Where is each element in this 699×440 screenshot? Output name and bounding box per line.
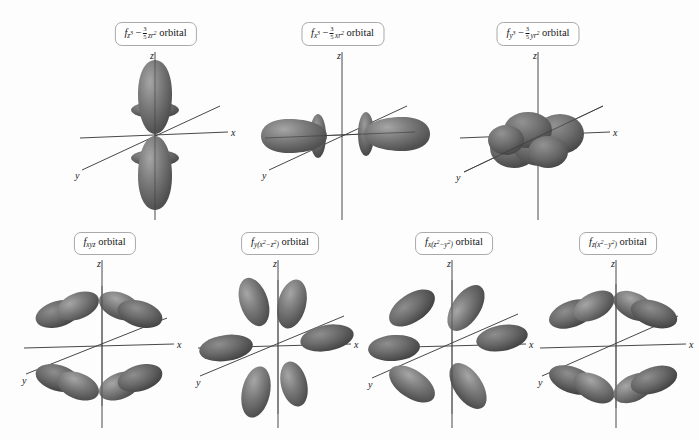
orbital-svg-fxyz: z x y [22,256,187,431]
axis-label-z: z [336,50,341,61]
axis-label-y: y [367,379,373,390]
axis-label-x: x [353,339,359,350]
orbital-formula-fy-x2-z2: fy(x2−z2) [251,236,279,247]
orbital-formula-fx3: fx3 −35xr2 [311,27,344,38]
axis-label-z: z [532,50,537,61]
orbital-svg-fy3: z x y [448,48,628,223]
orbital-cell-fz-x2-y2: fz(x2−y2) orbital z x y [538,232,698,432]
orbital-plot-fxyz: z x y [22,256,187,431]
axis-label-z: z [446,258,451,269]
axis-label-x: x [230,127,236,138]
orbital-svg-fz3: z x y [68,48,243,223]
axis-label-y: y [537,377,543,388]
orbital-svg-fx3: z x y [255,48,430,223]
orbital-cell-fxyz: fxyz orbital z x y [22,232,187,432]
orbital-formula-fxyz: fxyz [83,236,95,247]
orbital-label-fxyz: fxyz orbital [73,232,135,255]
axis-label-y: y [21,375,27,386]
orbital-lobes-fy-x2-z2 [197,274,355,420]
orbital-label-fx-z2-y2: fx(z2−y2) orbital [415,232,493,255]
axis-label-x: x [528,339,534,350]
orbital-plot-fx3: z x y [255,48,430,223]
orbital-plot-fz-x2-y2: z x y [538,256,698,431]
axis-label-z: z [610,258,615,269]
orbital-formula-fx-z2-y2: fx(z2−y2) [425,236,453,247]
axis-label-y: y [455,172,461,183]
axis-label-x: x [688,339,694,350]
axis-label-x: x [176,339,182,350]
orbital-plot-fy3: z x y [448,48,628,223]
axis-label-y: y [74,170,80,181]
orbital-cell-fx-z2-y2: fx(z2−y2) orbital z x y [368,232,540,432]
orbital-label-fy3: fy3 −35yr2 orbital [496,22,579,46]
orbital-plot-fz3: z x y [68,48,243,223]
orbital-word-fz-x2-y2: orbital [620,236,647,247]
orbital-label-fz3: fz3 −35zr2 orbital [114,22,196,46]
axis-label-z: z [149,50,154,61]
orbital-word-fxyz: orbital [98,236,125,247]
axis-label-z: z [96,258,101,269]
orbital-plot-fx-z2-y2: z x y [368,256,540,431]
orbital-word-fy-x2-z2: orbital [282,236,309,247]
orbital-word-fx3: orbital [347,27,374,38]
orbital-label-fy-x2-z2: fy(x2−z2) orbital [241,232,319,255]
orbital-svg-fz-x2-y2: z x y [538,256,698,431]
orbital-formula-fy3: fy3 −35yr2 [506,27,539,38]
axis-label-z: z [272,258,277,269]
orbital-label-fx3: fx3 −35xr2 orbital [301,22,384,46]
axis-label-x: x [612,127,618,138]
axis-label-y: y [261,170,267,181]
orbital-plot-fy-x2-z2: z x y [196,256,364,431]
orbital-svg-fy-x2-z2: z x y [196,256,364,431]
orbital-lobes-fx-z2-y2 [367,279,530,416]
orbital-formula-fz3: fz3 −35zr2 [124,27,156,38]
orbital-label-fz-x2-y2: fz(x2−y2) orbital [579,232,657,255]
orbital-cloud-fy3 [488,112,584,168]
axis-label-y: y [195,377,201,388]
f-orbitals-figure: fz3 −35zr2 orbital z x y [0,0,699,440]
orbital-word-fx-z2-y2: orbital [456,236,483,247]
orbital-cell-fz3: fz3 −35zr2 orbital z x y [68,22,243,222]
orbital-word-fz3: orbital [159,27,186,38]
orbital-cell-fy3: fy3 −35yr2 orbital z x y [448,22,628,222]
orbital-cell-fx3: fx3 −35xr2 orbital z x y [255,22,430,222]
orbital-svg-fx-z2-y2: z x y [368,256,540,431]
orbital-cell-fy-x2-z2: fy(x2−z2) orbital z x y [196,232,364,432]
orbital-formula-fz-x2-y2: fz(x2−y2) [589,236,617,247]
orbital-word-fy3: orbital [542,27,569,38]
